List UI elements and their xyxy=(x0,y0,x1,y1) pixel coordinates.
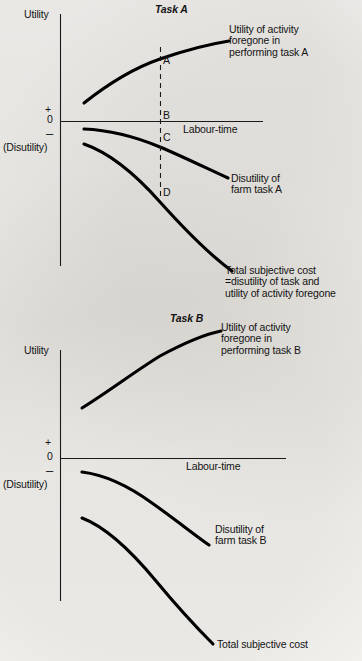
task-a-tick-zero: 0 xyxy=(47,114,53,125)
task-b-x-axis-label: Labour-time xyxy=(186,461,240,472)
diagram-vector-layer xyxy=(0,0,362,661)
task-a-annotation-utility-foregone: Utility of activity foregone in performi… xyxy=(229,24,308,58)
task-a-point-b-label: B xyxy=(163,110,170,121)
task-b-tick-disutility: (Disutility) xyxy=(3,479,47,490)
task-b-tick-minus: – xyxy=(46,466,53,475)
task-b-utility-foregone-curve xyxy=(82,331,221,408)
task-a-point-c-label: C xyxy=(163,132,170,143)
task-b-annotation-total-cost: Total subjective cost xyxy=(217,639,308,650)
task-b-total-cost-curve xyxy=(82,518,213,644)
task-a-point-d-label: D xyxy=(163,187,170,198)
task-b-chart-group xyxy=(61,331,287,644)
task-a-total-cost-curve xyxy=(84,144,232,271)
task-b-tick-plus: + xyxy=(45,437,51,448)
task-b-title: Task B xyxy=(170,313,203,324)
task-b-disutility-curve xyxy=(82,472,209,545)
task-a-annotation-disutility: Disutility of farm task A xyxy=(231,173,282,196)
utility-diagram-figure: Task A Utility + 0 – (Disutility) Labour… xyxy=(0,0,362,661)
task-a-title: Task A xyxy=(155,4,188,15)
task-b-annotation-disutility: Disutility of farm task B xyxy=(215,524,266,547)
task-b-y-axis-label: Utility xyxy=(24,345,49,356)
task-b-annotation-utility-foregone: Utility of activity foregone in performi… xyxy=(221,322,301,356)
task-a-y-axis-label: Utility xyxy=(24,9,49,20)
task-a-tick-disutility: (Disutility) xyxy=(3,142,47,153)
task-a-utility-foregone-curve xyxy=(84,41,229,103)
task-a-tick-minus: – xyxy=(46,129,53,138)
task-a-point-a-label: A xyxy=(163,55,170,66)
task-a-annotation-total-cost: Total subjective cost =disutility of tas… xyxy=(225,265,336,299)
task-a-x-axis-label: Labour-time xyxy=(183,124,237,135)
task-b-tick-zero: 0 xyxy=(47,451,53,462)
